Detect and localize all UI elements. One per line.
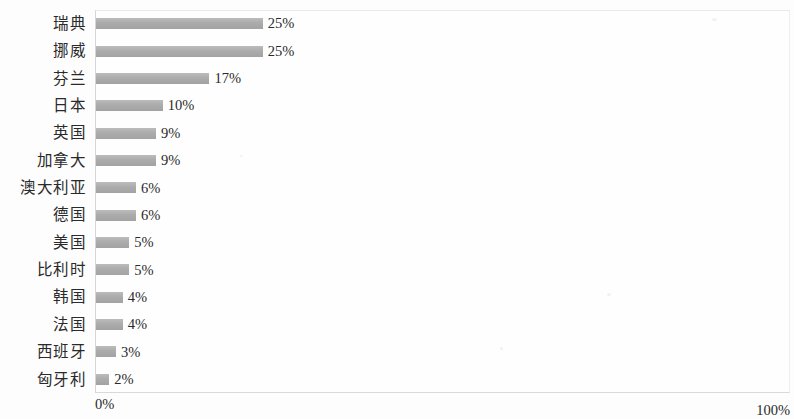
bar: [96, 18, 263, 29]
bar: [96, 264, 129, 275]
bar-value-label: 4%: [128, 290, 147, 305]
category-label: 瑞典: [0, 16, 86, 32]
bar-value-label: 6%: [141, 181, 160, 196]
category-label: 英国: [0, 125, 86, 141]
bar-value-label: 3%: [121, 345, 140, 360]
bar-chart: 瑞典25%挪威25%芬兰17%日本10%英国9%加拿大9%澳大利亚6%德国6%美…: [0, 0, 794, 419]
bar-value-label: 10%: [168, 98, 195, 113]
bar-row: 瑞典25%: [0, 10, 794, 37]
category-label: 澳大利亚: [0, 180, 86, 196]
x-axis-max-tick-label: 100%: [756, 403, 790, 418]
bar-row: 韩国4%: [0, 284, 794, 311]
bar-and-value: 6%: [96, 174, 160, 201]
bar-value-label: 5%: [134, 235, 153, 250]
bar: [96, 374, 109, 385]
bar-and-value: 9%: [96, 147, 180, 174]
category-label: 韩国: [0, 289, 86, 305]
category-label: 芬兰: [0, 71, 86, 87]
bar-row: 西班牙3%: [0, 338, 794, 365]
bar-and-value: 5%: [96, 256, 154, 283]
bar: [96, 292, 123, 303]
bar-and-value: 6%: [96, 202, 160, 229]
bar-and-value: 3%: [96, 338, 140, 365]
bar-and-value: 4%: [96, 284, 147, 311]
bar-and-value: 9%: [96, 119, 180, 146]
bar-row: 芬兰17%: [0, 65, 794, 92]
x-axis-min-tick-label: 0%: [95, 397, 114, 412]
bar-value-label: 25%: [268, 16, 295, 31]
category-label: 法国: [0, 317, 86, 333]
bar-and-value: 4%: [96, 311, 147, 338]
category-label: 匈牙利: [0, 372, 86, 388]
bar: [96, 182, 136, 193]
bar: [96, 346, 116, 357]
bar-value-label: 6%: [141, 208, 160, 223]
bar: [96, 73, 209, 84]
bar: [96, 100, 163, 111]
bar-value-label: 17%: [214, 71, 241, 86]
bar: [96, 155, 156, 166]
category-label: 德国: [0, 207, 86, 223]
bar-row: 英国9%: [0, 119, 794, 146]
bar-row: 日本10%: [0, 92, 794, 119]
bar: [96, 46, 263, 57]
category-label: 加拿大: [0, 153, 86, 169]
bar-and-value: 25%: [96, 10, 294, 37]
category-label: 日本: [0, 98, 86, 114]
bar-and-value: 17%: [96, 65, 241, 92]
bar-rows: 瑞典25%挪威25%芬兰17%日本10%英国9%加拿大9%澳大利亚6%德国6%美…: [0, 10, 794, 393]
category-label: 比利时: [0, 262, 86, 278]
category-label: 挪威: [0, 43, 86, 59]
bar-value-label: 4%: [128, 317, 147, 332]
bar-and-value: 2%: [96, 366, 134, 393]
bar-row: 加拿大9%: [0, 147, 794, 174]
bar-and-value: 25%: [96, 37, 294, 64]
bar-value-label: 2%: [114, 372, 133, 387]
bar-value-label: 9%: [161, 153, 180, 168]
bar-row: 德国6%: [0, 202, 794, 229]
bar-row: 比利时5%: [0, 256, 794, 283]
category-label: 美国: [0, 235, 86, 251]
bar-row: 匈牙利2%: [0, 366, 794, 393]
bar-value-label: 25%: [268, 44, 295, 59]
bar-value-label: 9%: [161, 126, 180, 141]
bar-row: 法国4%: [0, 311, 794, 338]
bar-row: 挪威25%: [0, 37, 794, 64]
bar: [96, 210, 136, 221]
category-label: 西班牙: [0, 344, 86, 360]
bar-and-value: 10%: [96, 92, 194, 119]
bar-row: 美国5%: [0, 229, 794, 256]
bar-value-label: 5%: [134, 263, 153, 278]
bar-row: 澳大利亚6%: [0, 174, 794, 201]
bar-and-value: 5%: [96, 229, 154, 256]
bar: [96, 319, 123, 330]
bar: [96, 128, 156, 139]
bar: [96, 237, 129, 248]
